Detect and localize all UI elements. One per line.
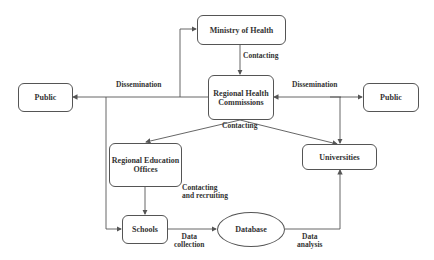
edge-label-dissemination-right: Dissemination — [292, 81, 337, 89]
node-label: Schools — [132, 225, 158, 234]
node-label: Public — [35, 93, 57, 102]
edge-label-contacting-ministry: Contacting — [243, 52, 278, 60]
node-database: Database — [217, 212, 285, 247]
node-public-left: Public — [18, 83, 73, 112]
node-schools: Schools — [122, 215, 168, 244]
node-label: Public — [380, 93, 402, 102]
edge-label-line: analysis — [297, 241, 322, 249]
node-public-right: Public — [363, 83, 419, 112]
edge-label-line: collection — [174, 241, 204, 249]
node-label: Database — [235, 225, 267, 234]
node-regional-education-offices: Regional Education Offices — [109, 143, 182, 187]
edge-label-dissemination-left: Dissemination — [116, 81, 161, 89]
node-label: Ministry of Health — [210, 26, 274, 35]
node-label: Universities — [319, 153, 359, 162]
edge-label-line: and recruiting — [182, 192, 228, 200]
edge-label-data-analysis: Data analysis — [297, 233, 322, 249]
edge-label-data-collection: Data collection — [174, 233, 204, 249]
node-ministry-of-health: Ministry of Health — [197, 15, 286, 45]
node-label: Regional Education Offices — [110, 156, 181, 174]
node-label: Regional Health Commissions — [209, 89, 273, 107]
edge-label-contacting-rhc: Contacting — [222, 122, 257, 130]
node-universities: Universities — [302, 144, 377, 170]
node-regional-health-commissions: Regional Health Commissions — [208, 75, 274, 120]
edge-label-contacting-recruiting: Contacting and recruiting — [182, 184, 228, 200]
